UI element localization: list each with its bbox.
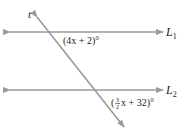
angle-label-1: (4x + 2)° [63, 35, 99, 47]
line-l1-label: L1 [165, 25, 177, 41]
angle-label-2-frac-num: 3 [116, 97, 119, 103]
angle-label-2: ( 3 2 x + 32)° [111, 97, 154, 110]
angle-label-2-frac-den: 2 [116, 104, 119, 110]
angle-label-2-prefix: ( [111, 97, 115, 109]
angle-label-2-suffix: x + 32)° [121, 97, 154, 109]
transversal-label: t [28, 8, 32, 20]
line-l2-label: L2 [165, 83, 177, 99]
parallel-lines-diagram: L1 L2 t (4x + 2)° ( 3 2 x + 32)° [0, 0, 187, 134]
transversal-stroke [37, 17, 124, 127]
transversal-t: t [28, 8, 124, 127]
